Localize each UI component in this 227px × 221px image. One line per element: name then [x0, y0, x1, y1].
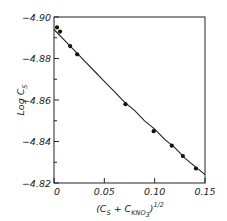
data-point [181, 154, 185, 158]
x-axis-ticks: 00.050.100.15 [54, 178, 216, 197]
y-axis-ticks: −4.90−4.88−4.86−4.84−4.82 [22, 12, 59, 189]
x-tick-label: 0.15 [194, 186, 215, 197]
plot-frame [54, 17, 205, 183]
chart: −4.90−4.88−4.86−4.84−4.82 00.050.100.15 … [0, 0, 227, 221]
data-point [123, 102, 127, 106]
x-tick-label: 0.10 [144, 186, 165, 197]
x-tick-label: 0.05 [94, 186, 115, 197]
data-point [194, 166, 198, 170]
fitted-curve [54, 30, 205, 175]
data-point [75, 52, 79, 56]
y-tick-label: −4.88 [22, 53, 51, 64]
x-tick-label: 0 [54, 186, 60, 197]
x-axis-label: (CS + CKNO3)1/2 [96, 201, 164, 219]
data-point [68, 44, 72, 48]
data-point [170, 144, 174, 148]
y-tick-label: −4.82 [22, 178, 51, 189]
y-tick-label: −4.90 [22, 12, 51, 23]
y-tick-label: −4.84 [22, 136, 51, 147]
data-point [55, 25, 59, 29]
y-tick-label: −4.86 [22, 95, 51, 106]
data-point [58, 29, 62, 33]
data-point [152, 129, 156, 133]
